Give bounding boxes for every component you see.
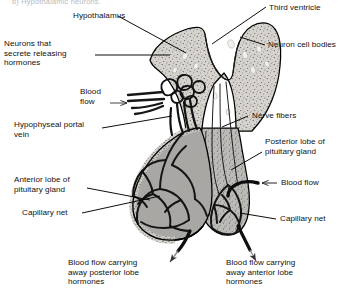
label-capillary-net-left: Capillary net	[22, 208, 68, 218]
label-blood-flow-posterior: Blood flow	[281, 178, 319, 188]
figure-canvas: b) Hypothalamic neurons. Hypothalamus Th…	[0, 0, 359, 299]
label-outflow-anterior: Blood flow carrying away anterior lobe h…	[226, 258, 295, 287]
label-neuron-cell-bodies: Neuron cell bodies	[268, 40, 336, 50]
label-hypophyseal-portal-vein: Hypophyseal portal vein	[14, 120, 84, 139]
label-blood-flow-in: Blood flow	[80, 87, 101, 106]
label-capillary-net-right: Capillary net	[280, 214, 326, 224]
label-nerve-fibers: Nerve fibers	[252, 111, 296, 121]
label-posterior-lobe: Posterior lobe of pituitary gland	[265, 137, 325, 156]
label-neurons-secrete-releasing-hormones: Neurons that secrete releasing hormones	[4, 39, 67, 68]
label-outflow-posterior: Blood flow carrying away posterior lobe …	[68, 258, 139, 287]
figure-title-fragment: b) Hypothalamic neurons.	[12, 0, 101, 6]
label-hypothalamus: Hypothalamus	[73, 11, 125, 21]
label-anterior-lobe: Anterior lobe of pituitary gland	[14, 175, 70, 194]
label-third-ventricle: Third ventricle	[269, 3, 321, 13]
